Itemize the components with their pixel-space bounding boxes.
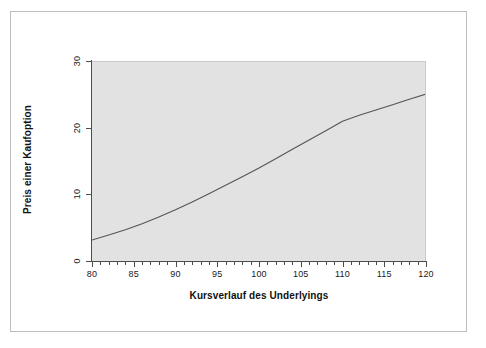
x-tick-minor: [142, 262, 143, 265]
x-tick-minor: [109, 262, 110, 265]
x-tick-minor: [326, 262, 327, 265]
x-tick-minor: [368, 262, 369, 265]
x-tick-minor: [334, 262, 335, 265]
x-tick-label: 115: [364, 269, 404, 279]
x-tick-minor: [159, 262, 160, 265]
plot-area: [92, 61, 426, 261]
x-tick-minor: [192, 262, 193, 265]
chart-figure: 80859095100105110115120 0102030 Kursverl…: [0, 0, 486, 348]
x-tick-label: 100: [239, 269, 279, 279]
x-tick-label: 105: [281, 269, 321, 279]
x-tick-minor: [359, 262, 360, 265]
x-tick-label: 80: [72, 269, 112, 279]
y-axis-line: [91, 60, 92, 262]
x-tick-minor: [309, 262, 310, 265]
x-tick-minor: [100, 262, 101, 265]
x-tick-minor: [276, 262, 277, 265]
x-tick-minor: [409, 262, 410, 265]
x-tick-label: 110: [323, 269, 363, 279]
x-tick-minor: [242, 262, 243, 265]
x-tick-label: 85: [114, 269, 154, 279]
x-tick-major: [384, 262, 385, 267]
x-tick-minor: [292, 262, 293, 265]
x-tick-major: [301, 262, 302, 267]
x-tick-minor: [125, 262, 126, 265]
y-tick-label: 30: [67, 54, 87, 68]
x-axis-title: Kursverlauf des Underlyings: [92, 290, 426, 301]
x-tick-label: 120: [406, 269, 446, 279]
x-tick-minor: [351, 262, 352, 265]
x-tick-minor: [284, 262, 285, 265]
x-tick-major: [176, 262, 177, 267]
x-tick-minor: [251, 262, 252, 265]
x-tick-minor: [418, 262, 419, 265]
x-tick-minor: [401, 262, 402, 265]
x-tick-major: [343, 262, 344, 267]
y-tick-label: 10: [67, 187, 87, 201]
x-tick-minor: [209, 262, 210, 265]
x-tick-minor: [226, 262, 227, 265]
x-tick-minor: [376, 262, 377, 265]
x-tick-major: [217, 262, 218, 267]
y-axis-title: Preis einer Kaufoption: [22, 60, 33, 260]
call-option-price-curve: [92, 94, 426, 240]
x-tick-minor: [167, 262, 168, 265]
x-tick-minor: [234, 262, 235, 265]
x-tick-major: [134, 262, 135, 267]
x-tick-major: [92, 262, 93, 267]
y-tick-label: 0: [67, 254, 87, 268]
curve-svg: [92, 62, 426, 261]
x-tick-major: [426, 262, 427, 267]
x-tick-minor: [393, 262, 394, 265]
x-tick-minor: [201, 262, 202, 265]
x-tick-label: 95: [197, 269, 237, 279]
x-tick-minor: [150, 262, 151, 265]
x-tick-major: [259, 262, 260, 267]
x-tick-minor: [117, 262, 118, 265]
x-tick-minor: [184, 262, 185, 265]
y-tick-label: 20: [67, 121, 87, 135]
x-tick-label: 90: [156, 269, 196, 279]
x-tick-minor: [267, 262, 268, 265]
x-tick-minor: [317, 262, 318, 265]
